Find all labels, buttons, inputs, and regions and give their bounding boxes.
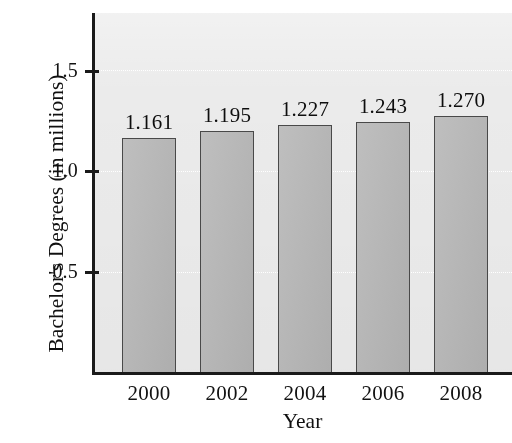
gridline-1.5 <box>93 70 512 71</box>
bar-2002 <box>200 131 254 373</box>
y-axis-title: Bachelor's Degrees (in millions) <box>44 19 69 409</box>
bar-value-label: 1.270 <box>424 88 498 113</box>
bar-chart-figure: 1.161 1.195 1.227 1.243 1.270 1.5 1.0 0.… <box>0 0 512 443</box>
bar-value-label: 1.243 <box>346 94 420 119</box>
bar-2006 <box>356 122 410 373</box>
x-tick-label-2008: 2008 <box>416 381 506 406</box>
x-tick-label-2006: 2006 <box>338 381 428 406</box>
x-tick-label-2000: 2000 <box>104 381 194 406</box>
bar-2004 <box>278 125 332 373</box>
x-tick-label-2004: 2004 <box>260 381 350 406</box>
x-axis-spine <box>92 372 512 375</box>
bar-2008 <box>434 116 488 373</box>
bar-value-label: 1.195 <box>190 103 264 128</box>
bar-2000 <box>122 138 176 373</box>
x-tick-label-2002: 2002 <box>182 381 272 406</box>
y-tick-mark-0.5 <box>85 271 99 274</box>
bar-value-label: 1.161 <box>112 110 186 135</box>
y-tick-mark-1.0 <box>85 170 99 173</box>
x-axis-title: Year <box>93 409 512 434</box>
y-axis-spine <box>92 13 95 373</box>
bar-value-label: 1.227 <box>268 97 342 122</box>
y-tick-mark-1.5 <box>85 70 99 73</box>
